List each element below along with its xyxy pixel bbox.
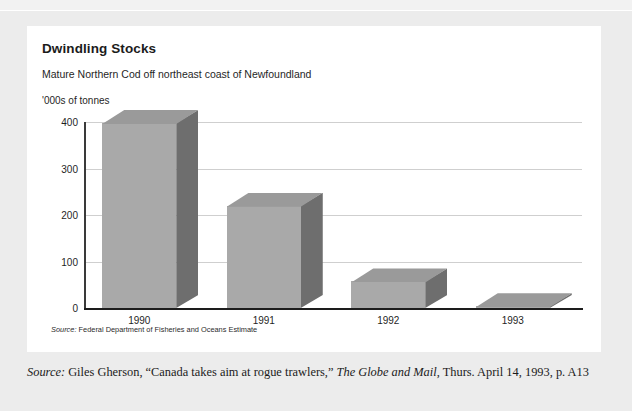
y-axis-tick-label: 400 (34, 117, 78, 128)
y-axis-line (84, 122, 86, 309)
x-axis-tick-label: 1992 (377, 315, 399, 326)
bar-front-face (351, 281, 425, 308)
bar (102, 110, 198, 308)
caption-publication: The Globe and Mail (337, 365, 437, 379)
chart-source-text: Federal Department of Fisheries and Ocea… (76, 325, 257, 334)
x-axis-tick-label: 1993 (502, 315, 524, 326)
y-axis-tick-label: 200 (34, 210, 78, 221)
bar-front-face (227, 206, 301, 308)
bar-chart-plot: 01002003004001990199119921993 (27, 26, 601, 352)
bar (351, 268, 447, 308)
y-axis-tick-label: 0 (34, 303, 78, 314)
bar-front-face (102, 123, 176, 308)
chart-card: Dwindling Stocks Mature Northern Cod off… (27, 26, 601, 352)
y-axis-tick-label: 100 (34, 256, 78, 267)
top-band (0, 0, 632, 10)
x-axis-line (84, 308, 583, 310)
bar-top-face (476, 293, 572, 307)
figure-caption: Source: Giles Gherson, “Canada takes aim… (27, 365, 589, 380)
bar-side-face (301, 193, 323, 308)
band-divider (0, 10, 632, 11)
bar (476, 293, 572, 308)
bar-side-face (176, 110, 198, 308)
bar (227, 193, 323, 308)
chart-source-prefix: Source: (51, 325, 76, 334)
y-axis-tick-label: 300 (34, 163, 78, 174)
chart-source-note: Source: Federal Department of Fisheries … (51, 325, 257, 334)
caption-source-prefix: Source: (27, 365, 65, 379)
caption-part-one: Giles Gherson, “Canada takes aim at rogu… (65, 365, 336, 379)
caption-part-two: , Thurs. April 14, 1993, p. A13 (437, 365, 589, 379)
